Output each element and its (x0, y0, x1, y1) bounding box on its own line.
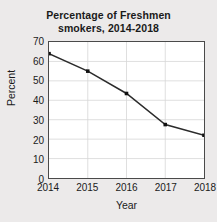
y-tick-label: 60 (18, 55, 44, 66)
y-axis-label: Percent (5, 58, 17, 118)
x-axis-tick-labels: 20142015201620172018 (48, 182, 205, 196)
y-tick-label: 10 (18, 154, 44, 165)
x-tick-label: 2016 (110, 182, 144, 193)
y-axis-tick-labels: 010203040506070 (14, 41, 44, 179)
y-tick-label: 20 (18, 134, 44, 145)
chart-figure: Percentage of Freshmen smokers, 2014-201… (0, 0, 217, 222)
gridlines (49, 42, 204, 178)
x-axis-label: Year (48, 199, 205, 211)
y-tick-label: 50 (18, 75, 44, 86)
x-tick-label: 2017 (149, 182, 183, 193)
data-point-marker (86, 69, 90, 73)
data-point-marker (163, 123, 167, 127)
y-tick-label: 40 (18, 95, 44, 106)
data-point-marker (49, 52, 51, 56)
chart-title-line-1: Percentage of Freshmen (0, 9, 217, 22)
chart-title-line-2: smokers, 2014-2018 (0, 22, 217, 35)
y-tick-label: 70 (18, 36, 44, 47)
data-point-marker (125, 92, 129, 96)
x-tick-label: 2014 (31, 182, 65, 193)
chart-title: Percentage of Freshmen smokers, 2014-201… (0, 9, 217, 35)
data-point-marker (202, 133, 204, 137)
y-tick-label: 30 (18, 114, 44, 125)
grid-and-series (49, 42, 204, 178)
x-tick-label: 2015 (70, 182, 104, 193)
x-tick-label: 2018 (188, 182, 217, 193)
plot-area (48, 41, 205, 179)
